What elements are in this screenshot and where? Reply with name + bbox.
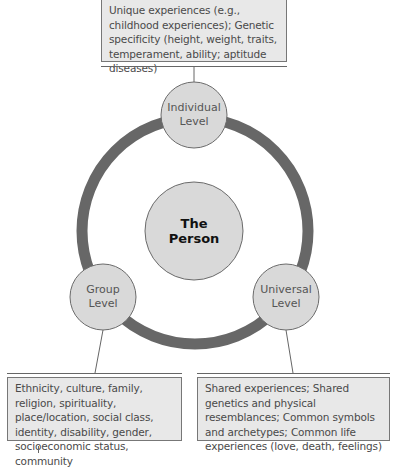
group-description-box: Ethnicity, culture, family, religion, sp… [7,377,182,441]
connector-universal [286,330,293,373]
universal-box-rule [197,373,390,374]
group-level-label: Group Level [70,283,136,311]
individual-box-rule [101,66,287,67]
group-description: Ethnicity, culture, family, religion, sp… [15,382,153,467]
universal-level-label: Universal Level [253,283,319,311]
group-box-rule [7,373,182,374]
individual-description-box: Unique experiences (e.g., childhood expe… [101,0,287,62]
connector-group [95,330,103,373]
page-tick-mark [38,446,39,453]
universal-description: Shared experiences; Shared genetics and … [205,382,382,452]
the-person-label: The Person [150,216,238,246]
individual-level-label: Individual Level [161,101,227,129]
universal-description-box: Shared experiences; Shared genetics and … [197,377,390,441]
